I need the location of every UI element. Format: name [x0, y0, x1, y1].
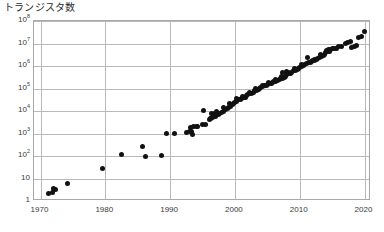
data-point — [203, 122, 208, 127]
data-point — [172, 131, 177, 136]
data-point — [140, 144, 145, 149]
y-axis-tick-label: 108 — [2, 16, 30, 24]
y-axis-tick-label: 1 — [2, 196, 30, 204]
y-axis-tick-label: 107 — [2, 39, 30, 47]
y-axis-tick-label: 102 — [2, 151, 30, 159]
data-point — [119, 152, 124, 157]
y-axis-tick-labels: 110102103104105106107108 — [0, 20, 30, 200]
scatter-points — [34, 21, 369, 199]
data-point — [362, 29, 367, 34]
data-point — [100, 166, 105, 171]
transistor-count-chart: トランジスタ数 110102103104105106107108 1970198… — [0, 0, 384, 232]
y-axis-tick-label: 104 — [2, 106, 30, 114]
data-point — [354, 43, 359, 48]
x-axis-tick-labels: 197019801990200020102020 — [0, 205, 384, 219]
data-point — [348, 39, 353, 44]
x-axis-tick-label: 1990 — [160, 205, 178, 214]
data-point — [65, 181, 70, 186]
x-axis-tick-label: 1970 — [31, 205, 49, 214]
y-axis-tick-label: 105 — [2, 84, 30, 92]
data-point — [164, 131, 169, 136]
data-point — [143, 154, 148, 159]
y-axis-tick-label: 103 — [2, 129, 30, 137]
x-axis-tick-label: 2010 — [290, 205, 308, 214]
x-axis-tick-label: 2000 — [225, 205, 243, 214]
data-point — [190, 132, 195, 137]
data-point — [201, 108, 206, 113]
data-point — [53, 187, 58, 192]
y-axis-tick-label: 10 — [2, 174, 30, 182]
x-axis-tick-label: 2020 — [355, 205, 373, 214]
plot-area — [33, 20, 370, 200]
data-point — [159, 153, 164, 158]
x-axis-tick-label: 1980 — [95, 205, 113, 214]
y-axis-tick-label: 106 — [2, 61, 30, 69]
chart-title: トランジスタ数 — [4, 2, 75, 14]
data-point — [359, 34, 364, 39]
